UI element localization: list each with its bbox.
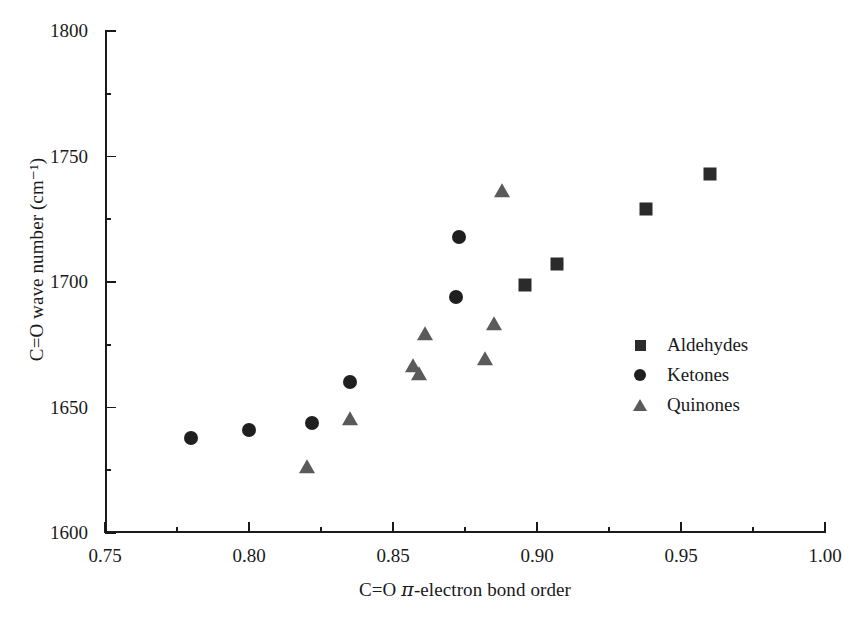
- legend-item-ketones[interactable]: Ketones: [627, 360, 748, 390]
- y-tick-minor: [105, 218, 111, 220]
- x-tick-label: 0.95: [646, 546, 716, 565]
- y-tick-minor: [105, 93, 111, 95]
- data-point-quinones: [299, 459, 315, 473]
- legend-item-aldehydes[interactable]: Aldehydes: [627, 330, 748, 360]
- data-point-ketones: [184, 431, 198, 445]
- data-point-ketones: [452, 230, 466, 244]
- x-tick-minor: [608, 527, 610, 533]
- x-tick-minor: [176, 527, 178, 533]
- x-tick-major: [104, 522, 106, 533]
- data-point-aldehydes: [551, 258, 564, 271]
- x-tick-major: [392, 522, 394, 533]
- data-point-ketones: [305, 416, 319, 430]
- y-tick-major: [105, 30, 116, 32]
- data-point-aldehydes: [703, 168, 716, 181]
- data-point-quinones: [411, 366, 427, 380]
- legend-label-quinones: Quinones: [667, 394, 740, 416]
- y-tick-label: 1700: [0, 272, 88, 291]
- y-tick-major: [105, 281, 116, 283]
- legend-label-aldehydes: Aldehydes: [667, 334, 748, 356]
- triangle-marker-icon: [627, 399, 653, 411]
- data-point-quinones: [417, 326, 433, 340]
- x-tick-label: 0.75: [70, 546, 140, 565]
- data-point-aldehydes: [640, 203, 653, 216]
- data-point-ketones: [449, 290, 463, 304]
- square-marker-icon: [627, 340, 653, 351]
- scatter-chart-figure: C=O wave number (cm⁻¹) C=O π-electron bo…: [0, 0, 844, 623]
- x-tick-minor: [464, 527, 466, 533]
- data-point-ketones: [343, 375, 357, 389]
- x-tick-major: [824, 522, 826, 533]
- x-tick-minor: [752, 527, 754, 533]
- y-tick-label: 1650: [0, 398, 88, 417]
- y-tick-label: 1750: [0, 147, 88, 166]
- data-point-quinones: [486, 316, 502, 330]
- circle-marker-icon: [627, 369, 653, 381]
- data-point-ketones: [242, 423, 256, 437]
- x-tick-major: [680, 522, 682, 533]
- y-tick-label: 1800: [0, 21, 88, 40]
- x-tick-minor: [320, 527, 322, 533]
- y-tick-major: [105, 156, 116, 158]
- y-tick-label: 1600: [0, 523, 88, 542]
- y-tick-minor: [105, 344, 111, 346]
- legend-item-quinones[interactable]: Quinones: [627, 390, 748, 420]
- x-tick-label: 1.00: [790, 546, 844, 565]
- x-axis-title: C=O π-electron bond order: [105, 578, 825, 601]
- x-axis-title-suffix: -electron bond order: [414, 579, 571, 600]
- x-tick-major: [248, 522, 250, 533]
- x-tick-label: 0.85: [358, 546, 428, 565]
- chart-legend: Aldehydes Ketones Quinones: [627, 330, 748, 420]
- y-tick-minor: [105, 469, 111, 471]
- x-tick-label: 0.90: [502, 546, 572, 565]
- x-tick-major: [536, 522, 538, 533]
- plot-area: [105, 31, 825, 533]
- data-point-aldehydes: [519, 278, 532, 291]
- data-point-quinones: [477, 351, 493, 365]
- data-point-quinones: [494, 183, 510, 197]
- data-point-quinones: [342, 411, 358, 425]
- y-tick-major: [105, 407, 116, 409]
- y-axis-title: C=O wave number (cm⁻¹): [25, 90, 48, 430]
- legend-label-ketones: Ketones: [667, 364, 729, 386]
- x-axis-title-prefix: C=O: [359, 579, 401, 600]
- pi-symbol: π: [401, 578, 414, 600]
- y-tick-major: [105, 532, 116, 534]
- x-tick-label: 0.80: [214, 546, 284, 565]
